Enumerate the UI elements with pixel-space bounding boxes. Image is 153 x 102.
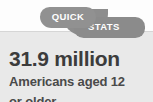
quick-stats-infographic-card: QUICK STATS 31.9 million Americans aged … (0, 0, 153, 102)
stat-description-line-2: or older (9, 95, 56, 102)
quick-stats-badge: QUICK STATS (0, 0, 153, 41)
badge-pill-quick-label: QUICK (52, 12, 85, 22)
stat-description-line-1: Americans aged 12 (9, 75, 125, 88)
badge-pill-quick: QUICK (40, 7, 96, 28)
headline-stat-value: 31.9 million (9, 48, 120, 69)
